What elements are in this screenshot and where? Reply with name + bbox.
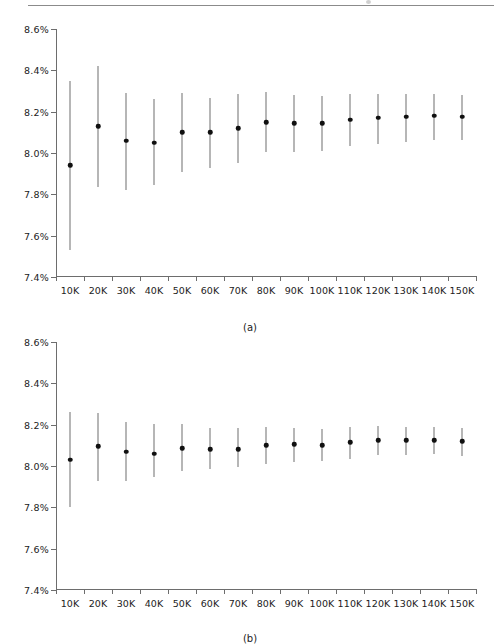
x-tick-label-a-1: 20K [89,285,108,296]
y-tick-label-a-6: 8.6% [24,24,49,35]
data-point-b-10 [348,440,353,445]
x-tick-a-11 [364,276,365,281]
x-tick-b-3 [140,589,141,594]
x-tick-label-a-2: 30K [117,285,136,296]
data-point-b-12 [404,438,409,443]
x-tick-a-4 [168,276,169,281]
x-tick-b-14 [448,589,449,594]
data-point-a-6 [236,126,241,131]
y-tick-label-b-4: 8.2% [24,419,49,430]
y-tick-label-b-0: 7.4% [24,585,49,596]
x-tick-b-5 [196,589,197,594]
x-tick-label-b-12: 130K [394,598,419,609]
data-point-a-4 [180,130,185,135]
x-tick-label-a-12: 130K [394,285,419,296]
x-tick-label-b-11: 120K [366,598,391,609]
x-tick-label-a-9: 100K [310,285,335,296]
panel-caption-a: (a) [0,322,500,333]
x-tick-label-a-10: 110K [338,285,363,296]
x-tick-label-a-5: 60K [201,285,220,296]
x-tick-b-0 [56,589,57,594]
x-tick-label-b-6: 70K [229,598,248,609]
y-tick-a-4 [51,112,57,113]
x-tick-label-b-0: 10K [61,598,80,609]
x-tick-b-15 [476,589,477,594]
y-tick-label-a-3: 8.0% [24,148,49,159]
x-tick-label-a-4: 50K [173,285,192,296]
x-tick-b-7 [252,589,253,594]
data-point-b-13 [432,438,437,443]
data-point-b-7 [264,443,269,448]
y-tick-a-3 [51,153,57,154]
x-tick-label-b-8: 90K [285,598,304,609]
x-tick-label-a-7: 80K [257,285,276,296]
data-point-b-14 [460,439,465,444]
x-tick-label-a-14: 150K [450,285,475,296]
data-point-a-11 [376,116,381,121]
x-axis-a [56,276,476,277]
x-tick-b-6 [224,589,225,594]
y-tick-label-a-4: 8.2% [24,106,49,117]
x-axis-b [56,589,476,590]
data-point-a-2 [124,138,129,143]
x-tick-a-6 [224,276,225,281]
x-tick-a-3 [140,276,141,281]
x-tick-b-11 [364,589,365,594]
x-tick-label-b-1: 20K [89,598,108,609]
data-point-a-5 [208,130,213,135]
y-tick-label-b-3: 8.0% [24,461,49,472]
data-point-a-3 [152,140,157,145]
data-point-b-3 [152,451,157,456]
y-tick-label-a-2: 7.8% [24,189,49,200]
x-tick-a-12 [392,276,393,281]
x-tick-label-b-5: 60K [201,598,220,609]
x-tick-a-2 [112,276,113,281]
y-tick-b-2 [51,507,57,508]
x-tick-b-9 [308,589,309,594]
x-tick-a-5 [196,276,197,281]
y-tick-b-1 [51,549,57,550]
x-tick-label-b-13: 140K [422,598,447,609]
x-tick-a-0 [56,276,57,281]
x-tick-label-b-14: 150K [450,598,475,609]
x-tick-a-14 [448,276,449,281]
data-point-a-10 [348,118,353,123]
x-tick-label-a-13: 140K [422,285,447,296]
data-point-a-0 [68,163,73,168]
x-tick-a-8 [280,276,281,281]
x-tick-b-1 [84,589,85,594]
data-point-b-9 [320,443,325,448]
x-tick-label-a-3: 40K [145,285,164,296]
y-tick-label-b-2: 7.8% [24,502,49,513]
y-tick-a-5 [51,70,57,71]
header-rule [28,5,494,6]
x-tick-a-10 [336,276,337,281]
data-point-a-8 [292,121,297,126]
data-point-b-1 [96,444,101,449]
data-point-b-11 [376,438,381,443]
y-tick-label-a-5: 8.4% [24,65,49,76]
y-tick-a-2 [51,194,57,195]
y-tick-b-5 [51,383,57,384]
y-tick-label-a-0: 7.4% [24,272,49,283]
y-tick-b-4 [51,425,57,426]
y-tick-a-1 [51,236,57,237]
plot-area-b: 7.4%7.6%7.8%8.0%8.2%8.4%8.6%10K20K30K40K… [56,342,476,590]
x-tick-label-b-7: 80K [257,598,276,609]
data-point-b-2 [124,449,129,454]
data-point-b-4 [180,446,185,451]
y-tick-b-6 [51,342,57,343]
y-tick-label-b-5: 8.4% [24,378,49,389]
x-tick-label-b-9: 100K [310,598,335,609]
data-point-a-13 [432,114,437,119]
x-tick-label-b-10: 110K [338,598,363,609]
x-tick-label-a-0: 10K [61,285,80,296]
data-point-a-7 [264,120,269,125]
y-tick-b-3 [51,466,57,467]
x-tick-label-a-8: 90K [285,285,304,296]
page-artifact-speck [366,0,371,4]
x-tick-b-10 [336,589,337,594]
data-point-a-1 [96,124,101,129]
data-point-a-14 [460,115,465,120]
x-tick-label-a-11: 120K [366,285,391,296]
